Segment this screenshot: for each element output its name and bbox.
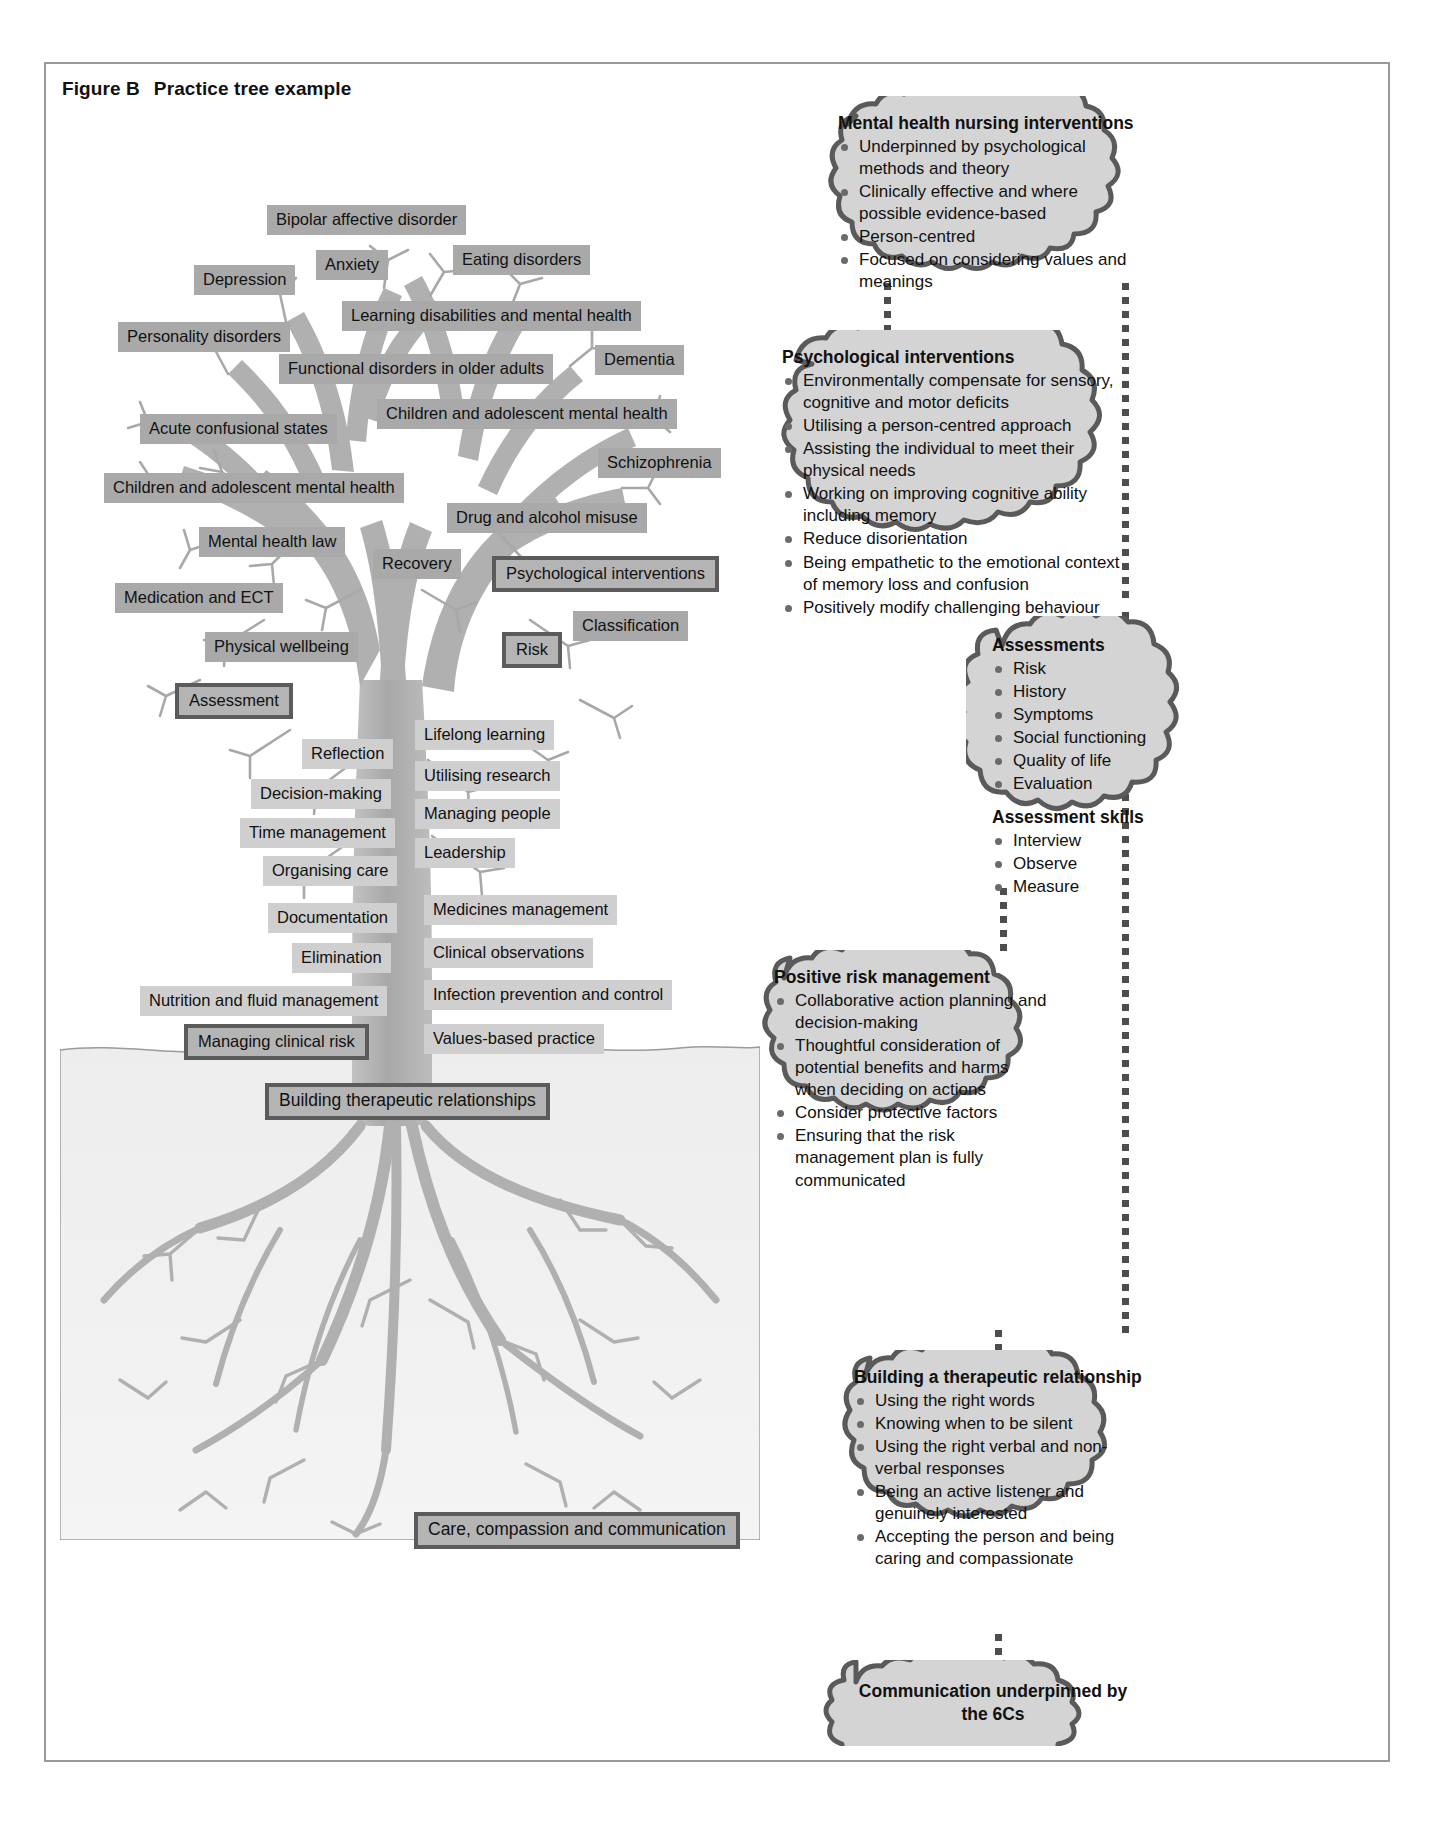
- tree-label-children-adolescent-mental-health-lower: Children and adolescent mental health: [104, 473, 404, 503]
- cloud-list-item: Focused on considering values and meanin…: [838, 249, 1134, 293]
- cloud-list-item: Accepting the person and being caring an…: [854, 1526, 1142, 1570]
- cloud-list-item: Clinically effective and where possible …: [838, 181, 1134, 225]
- tree-label-organising-care: Organising care: [263, 856, 397, 886]
- tree-label-building-therapeutic-relationships: Building therapeutic relationships: [265, 1083, 550, 1120]
- cloud-title: Positive risk management: [774, 966, 1048, 989]
- tree-label-documentation: Documentation: [268, 903, 397, 933]
- cloud-list-item: Underpinned by psychological methods and…: [838, 136, 1134, 180]
- tree-label-clinical-observations: Clinical observations: [424, 938, 593, 968]
- tree-label-functional-disorders-older-adults: Functional disorders in older adults: [279, 354, 553, 384]
- tree-label-bipolar-affective-disorder: Bipolar affective disorder: [267, 205, 466, 235]
- figure-label: Figure B: [62, 78, 140, 99]
- connector-stub-building: [995, 1330, 1002, 1352]
- cloud-list-item: Evaluation: [992, 773, 1170, 795]
- cloud-building-a-therapeutic-relationship: Building a therapeutic relationship Usin…: [824, 1350, 1168, 1552]
- tree-label-psychological-interventions: Psychological interventions: [492, 556, 719, 592]
- cloud-list: Collaborative action planning and decisi…: [774, 990, 1048, 1192]
- cloud-list: Risk History Symptoms Social functioning…: [992, 658, 1170, 796]
- tree-label-time-management: Time management: [240, 818, 395, 848]
- tree-label-reflection: Reflection: [302, 739, 393, 769]
- cloud-list-item: Assisting the individual to meet their p…: [782, 438, 1134, 482]
- tree-label-anxiety: Anxiety: [316, 250, 388, 280]
- cloud-list-item: Social functioning: [992, 727, 1170, 749]
- cloud-list-item: Utilising a person-centred approach: [782, 415, 1134, 437]
- cloud-sublist: Interview Observe Measure: [992, 830, 1170, 898]
- tree-label-utilising-research: Utilising research: [415, 761, 560, 791]
- tree-label-assessment: Assessment: [175, 683, 293, 719]
- cloud-mental-health-nursing-interventions: Mental health nursing interventions Unde…: [808, 96, 1160, 282]
- cloud-list-item: Interview: [992, 830, 1170, 852]
- tree-label-depression: Depression: [194, 265, 295, 295]
- cloud-title: Building a therapeutic relationship: [854, 1366, 1142, 1389]
- cloud-list-item: Consider protective factors: [774, 1102, 1048, 1124]
- cloud-list-item: Environmentally compensate for sensory, …: [782, 370, 1134, 414]
- cloud-psychological-interventions: Psychological interventions Environmenta…: [752, 330, 1160, 598]
- cloud-list-item: Ensuring that the risk management plan i…: [774, 1125, 1048, 1191]
- cloud-list: Environmentally compensate for sensory, …: [782, 370, 1134, 619]
- cloud-list-item: Using the right words: [854, 1390, 1142, 1412]
- tree-label-lifelong-learning: Lifelong learning: [415, 720, 554, 750]
- cloud-list-item: Quality of life: [992, 750, 1170, 772]
- cloud-title: Assessments: [992, 634, 1170, 657]
- tree-label-medicines-management: Medicines management: [424, 895, 617, 925]
- tree-label-learning-disabilities: Learning disabilities and mental health: [342, 301, 641, 331]
- tree-label-managing-clinical-risk: Managing clinical risk: [184, 1024, 369, 1060]
- cloud-list-item: Observe: [992, 853, 1170, 875]
- figure-title: Practice tree example: [154, 78, 352, 99]
- tree-label-risk: Risk: [502, 632, 562, 668]
- cloud-list-item: Risk: [992, 658, 1170, 680]
- cloud-list-item: Knowing when to be silent: [854, 1413, 1142, 1435]
- tree-label-decision-making: Decision-making: [251, 779, 391, 809]
- tree-label-acute-confusional-states: Acute confusional states: [140, 414, 337, 444]
- tree-label-classification: Classification: [573, 611, 688, 641]
- cloud-title: Psychological interventions: [782, 346, 1134, 369]
- cloud-subtitle: Assessment skills: [992, 806, 1170, 829]
- cloud-list-item: Being an active listener and genuinely i…: [854, 1481, 1142, 1525]
- cloud-list-item: Using the right verbal and non-verbal re…: [854, 1436, 1142, 1480]
- cloud-list-item: Working on improving cognitive ability i…: [782, 483, 1134, 527]
- tree-label-personality-disorders: Personality disorders: [118, 322, 290, 352]
- cloud-list-item: Thoughtful consideration of potential be…: [774, 1035, 1048, 1101]
- tree-label-elimination: Elimination: [292, 943, 391, 973]
- tree-label-eating-disorders: Eating disorders: [453, 245, 590, 275]
- tree-label-managing-people: Managing people: [415, 799, 560, 829]
- tree-label-mental-health-law: Mental health law: [199, 527, 345, 557]
- cloud-list: Using the right words Knowing when to be…: [854, 1390, 1142, 1571]
- cloud-assessments: Assessments Risk History Symptoms Social…: [966, 616, 1188, 890]
- tree-label-leadership: Leadership: [415, 838, 515, 868]
- cloud-list-item: Reduce disorientation: [782, 528, 1134, 550]
- cloud-list-item: Symptoms: [992, 704, 1170, 726]
- cloud-title: Mental health nursing interventions: [838, 112, 1134, 135]
- cloud-list-item: Person-centred: [838, 226, 1134, 248]
- tree-label-values-based-practice: Values-based practice: [424, 1024, 604, 1054]
- tree-label-schizophrenia: Schizophrenia: [598, 448, 721, 478]
- cloud-list: Underpinned by psychological methods and…: [838, 136, 1134, 294]
- tree-label-medication-and-ect: Medication and ECT: [115, 583, 283, 613]
- cloud-list-item: History: [992, 681, 1170, 703]
- cloud-positive-risk-management: Positive risk management Collaborative a…: [744, 950, 1074, 1136]
- cloud-list-item: Collaborative action planning and decisi…: [774, 990, 1048, 1034]
- tree-label-physical-wellbeing: Physical wellbeing: [205, 632, 358, 662]
- tree-label-dementia: Dementia: [595, 345, 684, 375]
- figure-page: Figure BPractice tree example: [0, 0, 1433, 1834]
- cloud-list-item: Being empathetic to the emotional contex…: [782, 552, 1134, 596]
- tree-label-care-compassion-and-communication: Care, compassion and communication: [414, 1512, 740, 1549]
- cloud-communication-6cs: Communication underpinned by the 6Cs: [818, 1660, 1164, 1746]
- cloud-list-item: Measure: [992, 876, 1170, 898]
- tree-label-infection-prevention-and-control: Infection prevention and control: [424, 980, 672, 1010]
- tree-label-recovery: Recovery: [373, 549, 461, 579]
- tree-label-nutrition-and-fluid-management: Nutrition and fluid management: [140, 986, 387, 1016]
- tree-label-children-adolescent-mental-health-upper: Children and adolescent mental health: [377, 399, 677, 429]
- tree-label-drug-and-alcohol-misuse: Drug and alcohol misuse: [447, 503, 647, 533]
- cloud-title: Communication underpinned by the 6Cs: [848, 1680, 1138, 1726]
- figure-caption: Figure BPractice tree example: [62, 78, 351, 100]
